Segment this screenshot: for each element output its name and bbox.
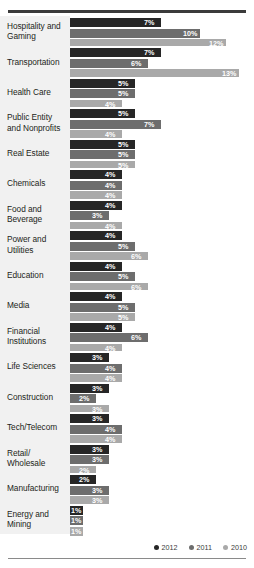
bar-group: 7%10%12%: [70, 16, 254, 46]
category-label-text: Power andUtilities: [7, 234, 46, 254]
bar-group: 4%5%6%: [70, 229, 254, 259]
bar-group: 5%5%4%: [70, 77, 254, 107]
bar-2012: [70, 384, 109, 393]
bar-line: 5%: [70, 272, 254, 281]
bar-value-label: 5%: [118, 79, 128, 88]
bar-value-label: 1%: [71, 506, 81, 515]
bar-group: 3%4%4%: [70, 351, 254, 381]
category-label: FinancialInstitutions: [0, 321, 70, 351]
bar-line: 4%: [70, 170, 254, 179]
bar-line: 3%: [70, 384, 254, 393]
category-label: Power andUtilities: [0, 229, 70, 259]
category-label-text: Retail/Wholesale: [7, 448, 45, 468]
legend-label: 2010: [231, 543, 247, 552]
chart-row: Manufacturing2%3%3%: [0, 473, 254, 503]
category-label-text: Health Care: [7, 87, 51, 97]
bar-group: 4%5%6%: [70, 260, 254, 290]
category-label-text: Food andBeverage: [7, 204, 42, 224]
category-label: Real Estate: [0, 138, 70, 168]
bar-line: 3%: [70, 414, 254, 423]
bar-value-label: 3%: [92, 445, 102, 454]
bar-value-label: 4%: [105, 201, 115, 210]
bar-value-label: 5%: [118, 140, 128, 149]
bar-value-label: 4%: [105, 323, 115, 332]
bar-value-label: 6%: [131, 333, 141, 342]
bar-value-label: 4%: [105, 181, 115, 190]
category-label-text: Transportation: [7, 57, 60, 67]
chart-row: Public Entityand Nonprofits5%7%4%: [0, 107, 254, 137]
bar-value-label: 1%: [71, 516, 81, 525]
category-label-text: Energy andMining: [7, 509, 49, 529]
bar-line: 5%: [70, 140, 254, 149]
bar-value-label: 5%: [118, 272, 128, 281]
bar-line: 7%: [70, 18, 254, 27]
bar-value-label: 4%: [105, 262, 115, 271]
bar-line: 4%: [70, 231, 254, 240]
legend-swatch-icon: [189, 545, 194, 550]
category-label-text: Manufacturing: [7, 483, 59, 493]
legend-label: 2012: [162, 543, 178, 552]
chart-row: Media4%5%5%: [0, 290, 254, 320]
bar-line: 5%: [70, 109, 254, 118]
bar-value-label: 7%: [144, 48, 154, 57]
bar-line: 1%: [70, 516, 254, 525]
bar-value-label: 4%: [105, 292, 115, 301]
bar-line: 3%: [70, 455, 254, 464]
bar-line: 4%: [70, 425, 254, 434]
category-label: Education: [0, 260, 70, 290]
bar-value-label: 5%: [118, 150, 128, 159]
bar-group: 3%3%2%: [70, 443, 254, 473]
category-label-text: Life Sciences: [7, 361, 56, 371]
legend-item-2011[interactable]: 2011: [189, 543, 212, 552]
category-label: Health Care: [0, 77, 70, 107]
chart-row: Construction3%2%3%: [0, 382, 254, 412]
bar-2011: [70, 455, 109, 464]
grouped-bar-chart: Hospitality andGaming7%10%12%Transportat…: [0, 0, 254, 568]
chart-row: Health Care5%5%4%: [0, 77, 254, 107]
chart-row: Education4%5%6%: [0, 260, 254, 290]
chart-plot-area: Hospitality andGaming7%10%12%Transportat…: [0, 16, 254, 534]
chart-row: Tech/Telecom3%4%4%: [0, 412, 254, 442]
bar-value-label: 6%: [131, 59, 141, 68]
bar-group: 7%6%13%: [70, 46, 254, 76]
category-label-text: Tech/Telecom: [7, 422, 57, 432]
bar-value-label: 5%: [118, 242, 128, 251]
bar-group: 4%5%5%: [70, 290, 254, 320]
bar-line: 5%: [70, 303, 254, 312]
bar-group: 1%1%1%: [70, 504, 254, 534]
bar-value-label: 10%: [183, 29, 197, 38]
bar-line: 4%: [70, 323, 254, 332]
bar-value-label: 5%: [118, 303, 128, 312]
bar-2011: [70, 211, 109, 220]
category-label: Media: [0, 290, 70, 320]
chart-row: Chemicals4%4%4%: [0, 168, 254, 198]
bar-value-label: 1%: [71, 527, 81, 536]
legend-label: 2011: [197, 543, 212, 552]
bar-line: 3%: [70, 445, 254, 454]
bar-line: 5%: [70, 79, 254, 88]
bar-group: 2%3%3%: [70, 473, 254, 503]
bar-line: 4%: [70, 201, 254, 210]
bar-value-label: 2%: [79, 394, 89, 403]
bar-group: 3%4%4%: [70, 412, 254, 442]
category-label: Construction: [0, 382, 70, 412]
bar-value-label: 4%: [105, 425, 115, 434]
bar-value-label: 7%: [144, 18, 154, 27]
chart-row: Real Estate5%5%5%: [0, 138, 254, 168]
bar-value-label: 3%: [92, 486, 102, 495]
chart-row: Life Sciences3%4%4%: [0, 351, 254, 381]
chart-legend: 201220112010: [154, 543, 247, 552]
legend-item-2010[interactable]: 2010: [223, 543, 247, 552]
chart-row: Energy andMining1%1%1%: [0, 504, 254, 534]
legend-item-2012[interactable]: 2012: [154, 543, 178, 552]
chart-row: Transportation7%6%13%: [0, 46, 254, 76]
category-label: Tech/Telecom: [0, 412, 70, 442]
category-label: Public Entityand Nonprofits: [0, 107, 70, 137]
bottom-divider-rule: [8, 558, 246, 559]
bar-group: 5%5%5%: [70, 138, 254, 168]
bar-line: 6%: [70, 333, 254, 342]
category-label-text: Media: [7, 300, 29, 310]
bar-line: 10%: [70, 29, 254, 38]
bar-line: 5%: [70, 242, 254, 251]
category-label-text: Education: [7, 270, 43, 280]
